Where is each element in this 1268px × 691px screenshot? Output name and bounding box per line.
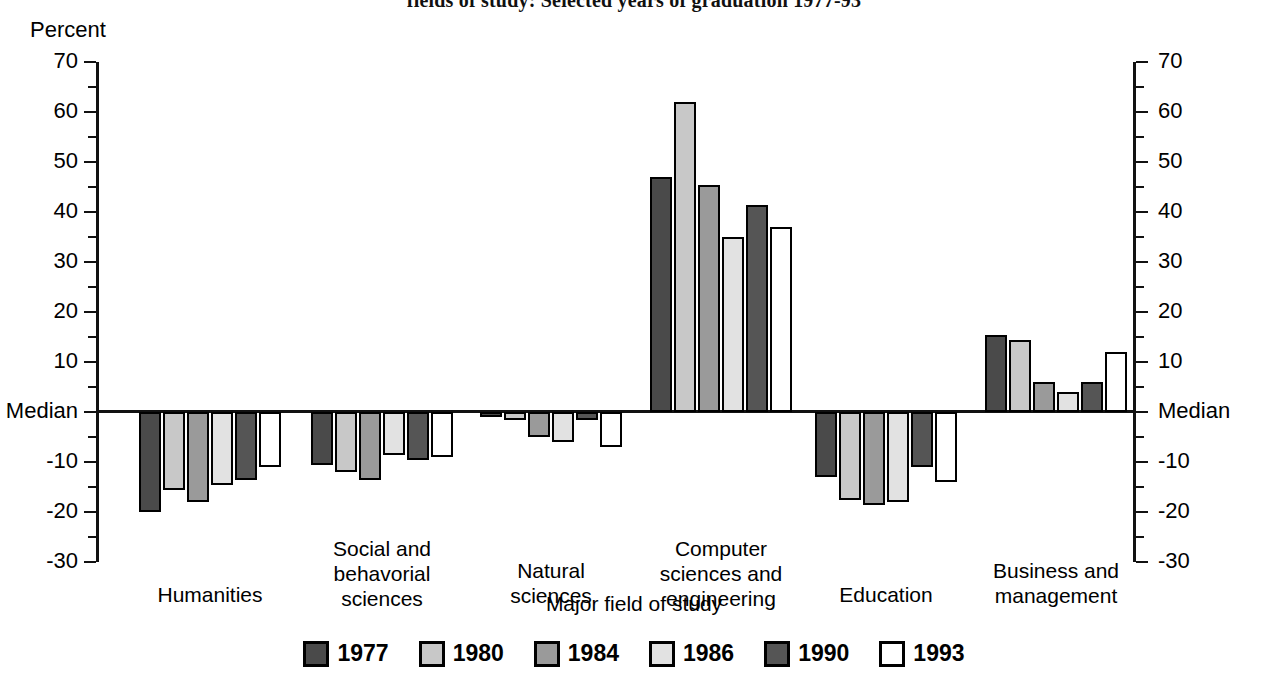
axis-tick	[1136, 286, 1144, 288]
axis-tick	[1136, 486, 1144, 488]
y-axis-tick-label: 20	[1158, 300, 1182, 322]
axis-tick	[1136, 536, 1144, 538]
legend-item[interactable]: 1980	[419, 640, 504, 667]
axis-tick	[88, 486, 96, 488]
bar	[431, 412, 453, 457]
axis-tick	[84, 111, 96, 113]
y-axis-tick-label: -10	[1158, 450, 1190, 472]
bar	[335, 412, 357, 472]
bar	[576, 412, 598, 420]
y-axis-tick-label: 60	[1158, 100, 1182, 122]
bar	[722, 237, 744, 412]
plot-area	[96, 62, 1136, 562]
axis-tick	[84, 361, 96, 363]
axis-tick	[88, 86, 96, 88]
axis-tick	[88, 336, 96, 338]
axis-tick	[84, 211, 96, 213]
chart-figure: fields of study: Selected years of gradu…	[0, 0, 1268, 691]
y-axis-tick-label: -20	[1158, 500, 1190, 522]
y-axis-tick-label: Median	[6, 400, 78, 422]
bar	[887, 412, 909, 502]
y-axis-tick-label: 10	[54, 350, 78, 372]
y-axis-tick-label: Median	[1158, 400, 1230, 422]
axis-tick	[84, 411, 96, 413]
y-axis-tick-label: 40	[54, 200, 78, 222]
axis-tick	[88, 186, 96, 188]
bar	[674, 102, 696, 412]
bar	[650, 177, 672, 412]
axis-tick	[1136, 111, 1148, 113]
bar	[600, 412, 622, 447]
legend-item[interactable]: 1977	[303, 640, 388, 667]
chart-title: fields of study: Selected years of gradu…	[0, 0, 1268, 12]
bar	[359, 412, 381, 480]
bar	[552, 412, 574, 442]
bar	[770, 227, 792, 412]
y-axis-tick-label: 40	[1158, 200, 1182, 222]
axis-tick	[1136, 336, 1144, 338]
bar	[187, 412, 209, 502]
y-axis-tick-label: 30	[54, 250, 78, 272]
category-label-line: Business and	[936, 558, 1176, 583]
legend-swatch	[419, 641, 445, 667]
axis-tick	[88, 286, 96, 288]
bar	[815, 412, 837, 477]
y-axis-header: Percent	[30, 17, 106, 43]
y-axis-tick-label: 30	[1158, 250, 1182, 272]
legend-label: 1986	[683, 640, 734, 667]
bar	[1009, 340, 1031, 413]
legend-swatch	[879, 641, 905, 667]
bar	[259, 412, 281, 467]
legend-item[interactable]: 1986	[649, 640, 734, 667]
axis-tick	[84, 61, 96, 63]
legend-label: 1977	[337, 640, 388, 667]
axis-tick	[1136, 511, 1148, 513]
axis-tick	[1136, 386, 1144, 388]
legend-swatch	[764, 641, 790, 667]
y-axis-tick-label: 20	[54, 300, 78, 322]
bar	[746, 205, 768, 413]
axis-tick	[88, 436, 96, 438]
axis-tick	[88, 136, 96, 138]
legend-item[interactable]: 1984	[534, 640, 619, 667]
bar	[985, 335, 1007, 413]
x-axis-title: Major field of study	[0, 592, 1268, 616]
legend-swatch	[303, 641, 329, 667]
axis-tick	[1136, 236, 1144, 238]
bar	[528, 412, 550, 437]
chart-legend: 197719801984198619901993	[0, 640, 1268, 667]
axis-tick	[84, 511, 96, 513]
axis-tick	[84, 311, 96, 313]
y-axis-tick-label: 50	[54, 150, 78, 172]
y-axis-left-line	[96, 62, 99, 562]
bar	[1033, 382, 1055, 412]
axis-tick	[84, 461, 96, 463]
bar	[139, 412, 161, 512]
legend-label: 1990	[798, 640, 849, 667]
axis-tick	[1136, 86, 1144, 88]
y-axis-tick-label: -20	[46, 500, 78, 522]
y-axis-tick-label: -10	[46, 450, 78, 472]
bar	[504, 412, 526, 420]
bar	[839, 412, 861, 500]
axis-tick	[84, 161, 96, 163]
axis-tick	[1136, 161, 1148, 163]
axis-tick	[1136, 186, 1144, 188]
bar	[407, 412, 429, 460]
legend-swatch	[649, 641, 675, 667]
y-axis-tick-label: 50	[1158, 150, 1182, 172]
bar	[211, 412, 233, 485]
legend-item[interactable]: 1993	[879, 640, 964, 667]
axis-tick	[1136, 211, 1148, 213]
axis-tick	[1136, 461, 1148, 463]
bar	[311, 412, 333, 465]
bar	[383, 412, 405, 455]
axis-tick	[88, 386, 96, 388]
axis-tick	[1136, 136, 1144, 138]
bar	[1081, 382, 1103, 412]
bar	[863, 412, 885, 505]
legend-item[interactable]: 1990	[764, 640, 849, 667]
axis-tick	[1136, 261, 1148, 263]
axis-tick	[1136, 61, 1148, 63]
y-axis-tick-label: 70	[54, 50, 78, 72]
